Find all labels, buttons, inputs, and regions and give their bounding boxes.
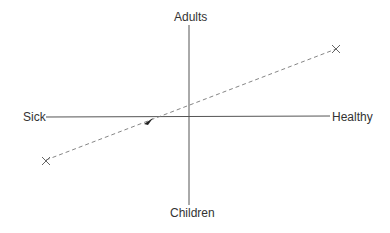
x-marker-end [332,45,340,53]
trajectory-line [46,49,336,160]
x-marker-start [42,157,50,165]
horizontal-axis [46,116,330,117]
diagram-canvas [0,0,390,233]
